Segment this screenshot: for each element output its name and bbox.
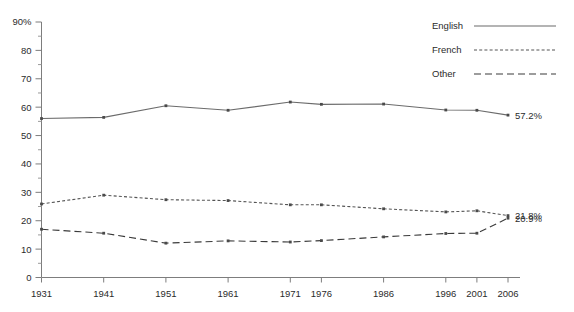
data-point-marker xyxy=(507,217,510,220)
data-point-marker xyxy=(40,228,43,231)
data-point-marker xyxy=(289,203,292,206)
data-point-marker xyxy=(320,103,323,106)
legend-label-french: French xyxy=(432,44,462,55)
series-line-other xyxy=(42,218,509,243)
y-tick-label: 90% xyxy=(12,16,32,27)
data-point-marker xyxy=(165,198,168,201)
series-line-english xyxy=(42,102,509,118)
data-point-marker xyxy=(382,207,385,210)
x-tick-label: 1986 xyxy=(373,288,394,299)
data-point-marker xyxy=(320,239,323,242)
data-point-marker xyxy=(476,232,479,235)
data-point-marker xyxy=(444,211,447,214)
data-point-marker xyxy=(102,116,105,119)
x-tick-label: 1941 xyxy=(93,288,114,299)
data-point-marker xyxy=(476,109,479,112)
x-axis-ticks xyxy=(42,278,509,283)
data-series-group xyxy=(42,102,509,243)
line-chart: 0102030405060708090% 1931194119511961197… xyxy=(0,0,574,312)
y-tick-label: 0 xyxy=(26,272,31,283)
y-tick-label: 20 xyxy=(21,215,32,226)
y-tick-label: 40 xyxy=(21,158,32,169)
data-point-marker xyxy=(444,109,447,112)
y-tick-label: 30 xyxy=(21,187,32,198)
data-point-markers xyxy=(40,101,509,245)
legend-label-english: English xyxy=(432,20,463,31)
series-line-french xyxy=(42,195,509,215)
legend-label-other: Other xyxy=(432,68,456,79)
x-tick-label: 2006 xyxy=(497,288,518,299)
data-point-marker xyxy=(165,104,168,107)
data-point-marker xyxy=(289,241,292,244)
data-point-marker xyxy=(320,203,323,206)
x-tick-label: 1976 xyxy=(311,288,332,299)
data-point-marker xyxy=(165,242,168,245)
data-point-marker xyxy=(444,232,447,235)
data-point-marker xyxy=(40,203,43,206)
x-tick-label: 2001 xyxy=(466,288,487,299)
data-point-marker xyxy=(227,239,230,242)
data-point-marker xyxy=(227,199,230,202)
chart-legend: EnglishFrenchOther xyxy=(432,20,556,79)
y-tick-label: 70 xyxy=(21,73,32,84)
x-tick-label: 1961 xyxy=(218,288,239,299)
chart-container: 0102030405060708090% 1931194119511961197… xyxy=(0,0,574,312)
data-point-marker xyxy=(227,109,230,112)
data-point-marker xyxy=(507,114,510,117)
data-point-marker xyxy=(102,194,105,197)
y-axis: 0102030405060708090% xyxy=(12,16,41,283)
y-tick-label: 60 xyxy=(21,102,32,113)
data-point-marker xyxy=(507,214,510,217)
x-tick-label: 1971 xyxy=(280,288,301,299)
data-point-marker xyxy=(40,117,43,120)
data-point-marker xyxy=(289,101,292,104)
series-end-label-other: 20.9% xyxy=(515,213,542,224)
series-end-labels: 57.2%21.8%20.9% xyxy=(515,110,542,224)
y-tick-label: 10 xyxy=(21,244,32,255)
x-tick-label: 1951 xyxy=(155,288,176,299)
data-point-marker xyxy=(382,103,385,106)
data-point-marker xyxy=(382,236,385,239)
x-tick-label: 1931 xyxy=(31,288,52,299)
y-axis-ticks xyxy=(36,22,42,278)
x-axis-tick-labels: 1931194119511961197119761986199620012006 xyxy=(31,288,519,299)
x-tick-label: 1996 xyxy=(435,288,456,299)
data-point-marker xyxy=(476,209,479,212)
y-tick-label: 80 xyxy=(21,45,32,56)
data-point-marker xyxy=(102,232,105,235)
x-axis: 1931194119511961197119761986199620012006 xyxy=(31,278,520,299)
y-axis-tick-labels: 0102030405060708090% xyxy=(12,16,32,283)
y-tick-label: 50 xyxy=(21,130,32,141)
series-end-label-english: 57.2% xyxy=(515,110,542,121)
